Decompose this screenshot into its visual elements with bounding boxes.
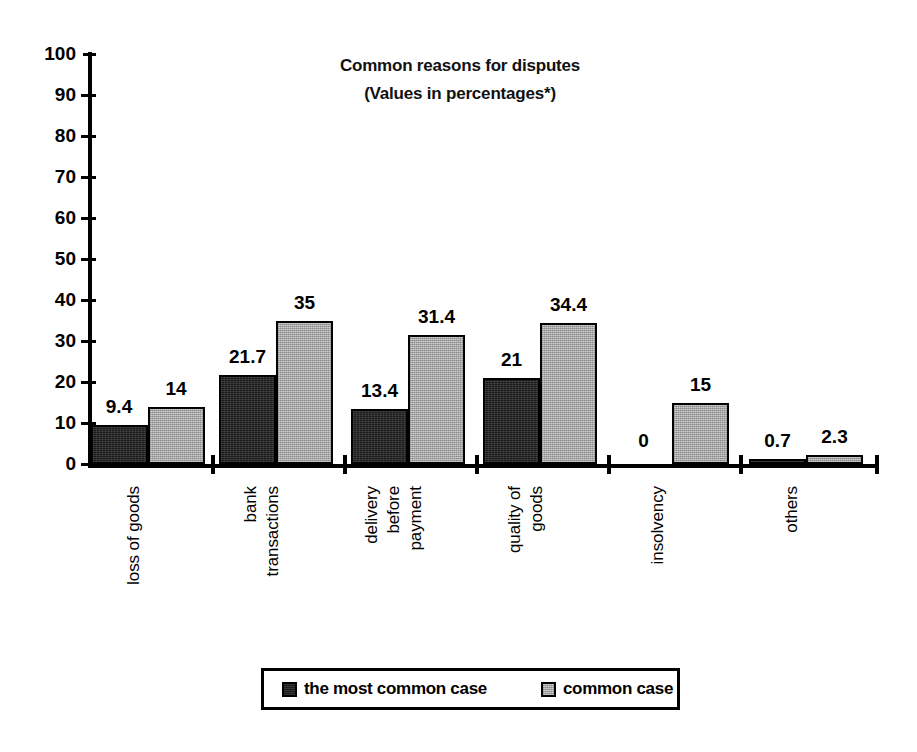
bar [483, 378, 540, 464]
bar [806, 455, 863, 464]
category-label-group: insolvency [647, 486, 669, 564]
light-swatch-icon [541, 682, 556, 697]
bar [276, 321, 333, 465]
bar [408, 335, 465, 464]
bar-value-label: 34.4 [528, 295, 609, 314]
legend-label-common: common case [563, 679, 673, 699]
category-label-line: payment [405, 486, 427, 551]
category-label-group: banktransactions [240, 486, 284, 576]
chart-legend: the most common case common case [261, 668, 680, 710]
bar [91, 425, 148, 464]
bar [540, 323, 597, 464]
dark-swatch-icon [282, 682, 297, 697]
bars-area: 9.41421.73513.431.42134.40150.72.3 [0, 0, 917, 752]
category-label-line: quality of [504, 486, 526, 553]
category-label-group: quality ofgoods [504, 486, 548, 553]
bar [219, 375, 276, 464]
legend-label-most-common: the most common case [304, 679, 487, 699]
bar [749, 459, 806, 464]
category-label-line: loss of goods [123, 486, 145, 585]
category-label-line: transactions [262, 486, 284, 576]
bar [672, 403, 729, 465]
bar-value-label: 14 [136, 379, 217, 398]
legend-item-most-common: the most common case [282, 679, 487, 699]
bar-value-label: 31.4 [396, 307, 477, 326]
category-label-line: delivery [361, 486, 383, 544]
bar [351, 409, 408, 464]
bar-value-label: 35 [264, 293, 345, 312]
category-label-line: bank [240, 486, 262, 522]
category-label-group: others [781, 486, 803, 533]
bar-value-label: 15 [660, 375, 741, 394]
category-label-line: goods [526, 486, 548, 532]
bar [148, 407, 205, 464]
category-label-line: before [383, 486, 405, 534]
chart-page: Common reasons for disputes (Values in p… [0, 0, 917, 752]
category-label-group: loss of goods [123, 486, 145, 585]
legend-item-common: common case [541, 679, 673, 699]
category-label-line: insolvency [647, 486, 669, 564]
category-label-line: others [781, 486, 803, 533]
category-label-group: deliverybeforepayment [361, 486, 427, 551]
bar-value-label: 2.3 [794, 427, 875, 446]
